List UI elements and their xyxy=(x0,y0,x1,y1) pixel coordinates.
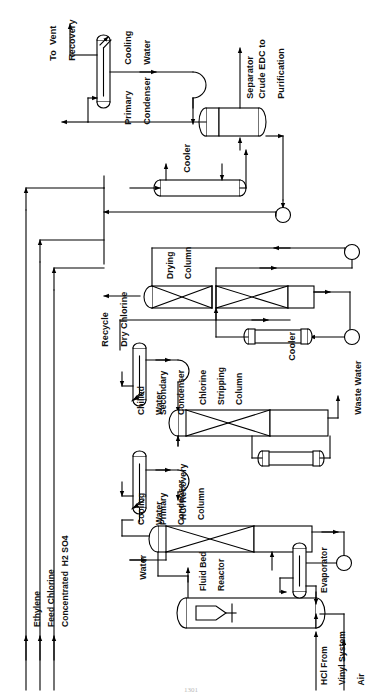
chlorine-stripping-column xyxy=(169,410,328,436)
label-crude-edc: Crude EDC to Purification xyxy=(249,39,287,104)
separator xyxy=(199,108,266,136)
label-waste-water: Waste Water xyxy=(345,360,364,420)
label-water-feed: Water xyxy=(130,555,149,585)
label-to-vent-recovery: To Vent Recovery xyxy=(40,19,78,66)
cooler-1 xyxy=(154,180,246,196)
label-fluid-bed-reactor: Fluid Bed Reactor xyxy=(190,551,226,596)
evaporator xyxy=(293,543,306,598)
primary-condenser-top xyxy=(97,35,111,108)
label-hcl-from-vinyl-system: HCl From Vinyl System xyxy=(311,631,347,690)
label-secondary-condenser: Secondary Condenser xyxy=(150,370,186,420)
drying-column xyxy=(144,286,314,308)
label-cooler-2: Cooler xyxy=(279,332,298,366)
label-cooler-1: Cooler xyxy=(174,144,193,178)
page-number: 1301 xyxy=(0,686,382,694)
label-hcl-recovery-column: HCl Recovery Column xyxy=(170,464,206,525)
label-recycle-dry-chlorine: Recycle Dry Chlorine xyxy=(92,292,130,352)
stripping-reboiler xyxy=(258,451,324,466)
label-primary-condenser-top: Primary Condenser xyxy=(115,77,153,130)
label-evaporator: Evaporator xyxy=(311,547,329,598)
label-cooling-water-top: Cooling Water xyxy=(115,31,153,70)
label-chlorine-stripping-column: Chlorine Stripping Column xyxy=(190,367,244,410)
label-drying-column: Drying Column xyxy=(157,247,193,284)
fluid-bed-reactor xyxy=(177,598,325,628)
label-concentrated-sulfuric-acid: Concentrated H2 SO4 xyxy=(52,535,70,632)
cooler-2 xyxy=(244,329,312,344)
